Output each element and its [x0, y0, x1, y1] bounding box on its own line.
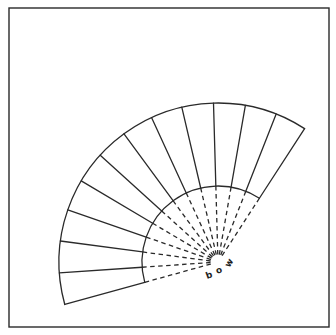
figure-frame [9, 8, 329, 327]
fan-rib [60, 241, 142, 252]
fan-rib [213, 103, 215, 186]
fan-rib [100, 155, 161, 211]
fan-rib-extension [216, 186, 218, 258]
fan [59, 103, 305, 304]
fan-rib-extension [201, 188, 217, 258]
fan-outer-edge [59, 103, 305, 304]
label-o: o [214, 264, 223, 276]
fan-rib-extension [219, 191, 245, 258]
fan-ribs [59, 103, 304, 304]
label-b: b [204, 269, 214, 281]
fan-rib [231, 105, 245, 187]
fan-rib-extension [219, 187, 231, 258]
fan-diagram: b o w [0, 0, 336, 335]
fan-rib [124, 134, 173, 201]
fan-rib-extensions [142, 186, 259, 282]
fan-rib [182, 107, 201, 188]
fan-rib [59, 267, 142, 273]
fan-rib [152, 118, 187, 193]
fan-rib [81, 181, 152, 223]
fan-rib-extension [162, 211, 215, 259]
fan-rib-extension [142, 262, 214, 267]
fan-rib-extension [186, 193, 216, 258]
fan-rib [65, 282, 145, 304]
label-w: w [223, 257, 236, 269]
fan-rib [68, 210, 146, 237]
